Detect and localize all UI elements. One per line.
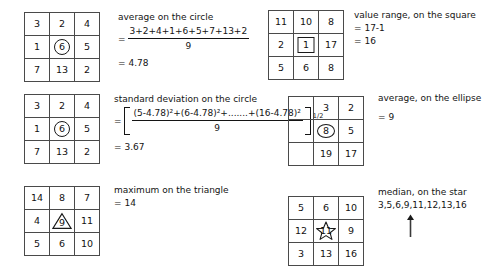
annotation-heading: maximum on the triangle — [114, 184, 229, 197]
grid-cell: 12 — [289, 220, 314, 243]
number-grid-median-star: 5 6 10 12 11 9 — [288, 196, 364, 266]
cell-value: 3 — [34, 101, 40, 111]
table-row: 3 2 — [289, 97, 364, 120]
fraction-numerator: (5-4.78)²+(6-4.78)²+.......+(16-4.78)² — [132, 107, 303, 121]
grid-cell-marked: 6 — [50, 36, 75, 59]
panel-maximum-triangle: 14 8 7 4 9 11 — [24, 186, 229, 256]
table-row: 3 2 4 — [25, 95, 100, 118]
number-grid-maximum-triangle: 14 8 7 4 9 11 — [24, 186, 100, 256]
grid-cell — [289, 97, 314, 120]
cell-value: 5 — [84, 42, 90, 52]
grid-cell: 17 — [319, 34, 344, 57]
panel-average-ellipse: 3 2 8 5 19 17 average, on the ellipse = … — [288, 96, 481, 166]
grid-cell-marked: 8 — [314, 120, 339, 143]
grid-cell: 1 — [25, 36, 50, 59]
cell-value: 7 — [34, 65, 40, 75]
bracketed-expression: (5-4.78)²+(6-4.78)²+.......+(16-4.78)² 9 — [124, 107, 311, 135]
annotation-range-square: value range, on the square = 17-1 = 16 — [354, 9, 476, 48]
grid-cell: 2 — [75, 141, 100, 164]
cell-value: 2 — [59, 101, 65, 111]
table-row: 5 6 10 — [25, 233, 100, 256]
grid-cell: 16 — [339, 243, 364, 266]
cell-value: 10 — [81, 239, 93, 249]
annotation-result: = 4.78 — [118, 57, 249, 70]
grid-cell: 3 — [314, 97, 339, 120]
table-row: 7 13 2 — [25, 141, 100, 164]
cell-value: 4 — [84, 19, 90, 29]
grid-cell: 4 — [75, 13, 100, 36]
grid-cell: 5 — [339, 120, 364, 143]
table-row: 11 10 8 — [269, 11, 344, 34]
cell-value: 9 — [59, 218, 65, 228]
cell-value: 5 — [84, 124, 90, 134]
table-row: 5 6 10 — [289, 197, 364, 220]
cell-value: 5 — [278, 63, 284, 73]
grid-cell: 2 — [50, 95, 75, 118]
cell-value: 3 — [298, 249, 304, 259]
cell-value: 2 — [278, 40, 284, 50]
grid-cell: 13 — [314, 243, 339, 266]
grid-cell — [289, 143, 314, 166]
fraction-denominator: 9 — [128, 39, 250, 53]
cell-value: 3 — [323, 103, 329, 113]
cell-value: 11 — [81, 216, 93, 226]
grid-cell: 10 — [75, 233, 100, 256]
grid-cell: 5 — [25, 233, 50, 256]
panel-range-square: 11 10 8 2 1 17 5 6 8 value range, on the… — [268, 10, 476, 80]
grid-cell: 4 — [25, 210, 50, 233]
grid-cell: 7 — [75, 187, 100, 210]
cell-value: 7 — [84, 193, 90, 203]
table-row: 19 17 — [289, 143, 364, 166]
grid-cell: 3 — [25, 95, 50, 118]
panel-median-star: 5 6 10 12 11 9 — [288, 196, 467, 266]
cell-value: 13 — [320, 249, 332, 259]
grid-cell: 7 — [25, 59, 50, 82]
grid-cell-marked: 9 — [50, 210, 75, 233]
table-row: 5 6 8 — [269, 57, 344, 80]
table-row: 8 5 — [289, 120, 364, 143]
annotation-subtraction: = 17-1 — [354, 22, 476, 35]
grid-cell-marked: 6 — [50, 118, 75, 141]
grid-cell: 2 — [75, 59, 100, 82]
panel-stddev-circle: 3 2 4 1 6 5 7 13 2 standard deviation on… — [24, 94, 323, 164]
cell-value: 13 — [56, 147, 68, 157]
cell-value: 4 — [34, 216, 40, 226]
cell-value: 12 — [295, 226, 307, 236]
panel-average-circle: 3 2 4 1 6 5 7 13 2 average on the circle… — [24, 12, 249, 82]
cell-value: 6 — [303, 63, 309, 73]
grid-cell-marked: 11 — [314, 220, 339, 243]
worksheet-canvas: 3 2 4 1 6 5 7 13 2 average on the circle… — [0, 0, 496, 279]
grid-cell: 8 — [319, 11, 344, 34]
cell-value: 3 — [34, 19, 40, 29]
number-grid-stddev-circle: 3 2 4 1 6 5 7 13 2 — [24, 94, 100, 164]
grid-cell: 7 — [25, 141, 50, 164]
annotation-median-star: median, on the star 3,5,6,9,11,12,13,16 — [378, 186, 467, 212]
cell-value: 11 — [320, 226, 332, 236]
cell-value: 16 — [345, 249, 357, 259]
annotation-maximum-triangle: maximum on the triangle = 14 — [114, 184, 229, 210]
cell-value: 14 — [31, 193, 43, 203]
grid-cell: 6 — [294, 57, 319, 80]
cell-value: 1 — [303, 40, 309, 50]
cell-value: 19 — [320, 149, 332, 159]
equals-sign: = — [118, 33, 126, 46]
table-row: 14 8 7 — [25, 187, 100, 210]
cell-value: 1 — [34, 124, 40, 134]
cell-value: 8 — [323, 126, 329, 136]
cell-value: 5 — [298, 203, 304, 213]
grid-cell: 2 — [269, 34, 294, 57]
grid-cell: 6 — [50, 233, 75, 256]
fraction: (5-4.78)²+(6-4.78)²+.......+(16-4.78)² 9 — [132, 107, 303, 135]
cell-value: 2 — [84, 65, 90, 75]
grid-cell: 11 — [75, 210, 100, 233]
grid-cell: 2 — [50, 13, 75, 36]
annotation-heading: average on the circle — [118, 11, 249, 24]
grid-cell: 10 — [294, 11, 319, 34]
fraction-numerator: 3+2+4+1+6+5+7+13+2 — [128, 25, 250, 39]
grid-cell: 8 — [319, 57, 344, 80]
annotation-average-ellipse: average, on the ellipse = 9 — [378, 92, 481, 124]
grid-cell: 4 — [75, 95, 100, 118]
annotation-formula: = 3+2+4+1+6+5+7+13+2 9 — [118, 25, 249, 53]
cell-value: 11 — [275, 17, 287, 27]
grid-cell: 13 — [50, 59, 75, 82]
